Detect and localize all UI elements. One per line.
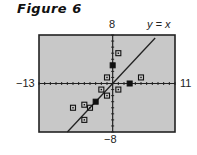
data-point-filled	[110, 63, 115, 68]
data-point-center	[106, 77, 107, 78]
data-point-filled	[93, 99, 98, 104]
data-point-center	[106, 95, 107, 96]
data-point-center	[84, 104, 85, 105]
data-point-center	[140, 77, 141, 78]
data-point-center	[72, 107, 73, 108]
data-point-center	[118, 89, 119, 90]
data-point-center	[89, 107, 90, 108]
data-point-filled	[127, 81, 132, 86]
data-point-center	[101, 89, 102, 90]
data-point-center	[118, 52, 119, 53]
scatter-plot	[0, 0, 197, 155]
data-point-center	[84, 119, 85, 120]
